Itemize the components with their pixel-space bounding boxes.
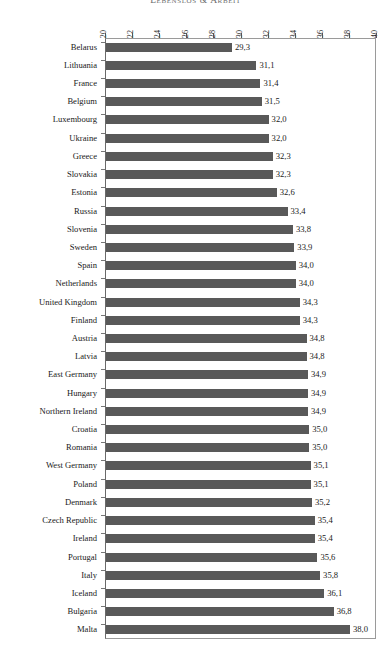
category-tick-mark: [101, 242, 105, 243]
bar-row: Italy35,8: [0, 566, 391, 584]
bar-value-label: 34,9: [311, 407, 326, 416]
bar-row: Ireland35,4: [0, 530, 391, 548]
category-tick-mark: [101, 424, 105, 425]
x-tick-mark: [213, 33, 214, 38]
category-label: Hungary: [67, 389, 97, 398]
bar[interactable]: [106, 571, 320, 580]
category-label: Estonia: [71, 188, 97, 197]
bar[interactable]: [106, 553, 317, 562]
category-label: Bulgaria: [67, 607, 97, 616]
bar-value-label: 35,2: [315, 498, 330, 507]
bar-value-label: 29,3: [235, 43, 250, 52]
bar[interactable]: [106, 243, 294, 252]
category-tick-mark: [101, 388, 105, 389]
bar-value-label: 34,3: [303, 298, 318, 307]
bar-value-label: 34,9: [311, 389, 326, 398]
bar[interactable]: [106, 279, 296, 288]
bar[interactable]: [106, 607, 334, 616]
category-tick-mark: [101, 624, 105, 625]
bar[interactable]: [106, 134, 269, 143]
x-tick-mark: [241, 33, 242, 38]
bar[interactable]: [106, 407, 308, 416]
bar[interactable]: [106, 115, 269, 124]
bar[interactable]: [106, 389, 308, 398]
bar-row: Greece32,3: [0, 147, 391, 165]
bar[interactable]: [106, 625, 350, 634]
category-label: Poland: [73, 480, 97, 489]
bar[interactable]: [106, 498, 312, 507]
category-tick-mark: [101, 606, 105, 607]
bar-value-label: 34,9: [311, 370, 326, 379]
category-label: West Germany: [46, 461, 97, 470]
bar-value-label: 34,8: [310, 352, 325, 361]
bar[interactable]: [106, 43, 232, 52]
bar-value-label: 31,1: [259, 61, 274, 70]
bar-value-label: 34,3: [303, 316, 318, 325]
x-tick-mark: [376, 33, 377, 38]
bar[interactable]: [106, 152, 273, 161]
category-label: Russia: [74, 207, 97, 216]
bar[interactable]: [106, 534, 315, 543]
category-tick-mark: [101, 588, 105, 589]
bar-value-label: 35,6: [320, 553, 335, 562]
category-tick-mark: [101, 515, 105, 516]
bar[interactable]: [106, 370, 308, 379]
bar[interactable]: [106, 188, 277, 197]
bar-value-label: 31,5: [265, 97, 280, 106]
category-label: Spain: [77, 261, 97, 270]
bar[interactable]: [106, 352, 307, 361]
bar[interactable]: [106, 261, 296, 270]
bar-row: Bulgaria36,8: [0, 603, 391, 621]
category-tick-mark: [101, 497, 105, 498]
bar-value-label: 35,0: [312, 425, 327, 434]
category-tick-mark: [101, 570, 105, 571]
bar-value-label: 38,0: [353, 625, 368, 634]
bar[interactable]: [106, 316, 300, 325]
bar-row: Portugal35,6: [0, 548, 391, 566]
bar-row: Denmark35,2: [0, 493, 391, 511]
bar-value-label: 35,4: [318, 534, 333, 543]
bar-value-label: 32,3: [276, 152, 291, 161]
category-tick-mark: [101, 442, 105, 443]
bar-value-label: 36,1: [327, 589, 342, 598]
bar[interactable]: [106, 480, 311, 489]
bar[interactable]: [106, 589, 324, 598]
bar[interactable]: [106, 516, 315, 525]
category-label: Belarus: [71, 43, 97, 52]
bar[interactable]: [106, 207, 288, 216]
bar[interactable]: [106, 79, 260, 88]
bar-row: Netherlands34,0: [0, 275, 391, 293]
bar[interactable]: [106, 334, 307, 343]
bar[interactable]: [106, 225, 293, 234]
bar-chart: Lebenslos & Arbeit 202224262830323436384…: [0, 0, 391, 657]
bar-rows: Belarus29,3Lithuania31,1France31,4Belgiu…: [0, 38, 391, 639]
category-tick-mark: [101, 333, 105, 334]
bar[interactable]: [106, 461, 311, 470]
bar-row: Hungary34,9: [0, 384, 391, 402]
category-tick-mark: [101, 460, 105, 461]
bar-value-label: 32,3: [276, 170, 291, 179]
bar[interactable]: [106, 425, 309, 434]
bar-row: Romania35,0: [0, 439, 391, 457]
bar-row: Sweden33,9: [0, 238, 391, 256]
category-tick-mark: [101, 187, 105, 188]
bar[interactable]: [106, 170, 273, 179]
category-label: Belgium: [67, 97, 97, 106]
bar[interactable]: [106, 97, 262, 106]
bar[interactable]: [106, 298, 300, 307]
category-label: Netherlands: [55, 279, 97, 288]
category-label: Northern Ireland: [39, 407, 97, 416]
x-tick-mark: [322, 33, 323, 38]
bar[interactable]: [106, 61, 256, 70]
bar-row: United Kingdom34,3: [0, 293, 391, 311]
bar-value-label: 31,4: [263, 79, 278, 88]
bar[interactable]: [106, 443, 309, 452]
category-tick-mark: [101, 278, 105, 279]
category-label: Iceland: [72, 589, 97, 598]
category-tick-mark: [101, 151, 105, 152]
bar-value-label: 33,9: [297, 243, 312, 252]
category-label: Slovenia: [67, 225, 97, 234]
bar-row: Russia33,4: [0, 202, 391, 220]
category-label: Croatia: [72, 425, 97, 434]
bar-value-label: 32,0: [272, 134, 287, 143]
